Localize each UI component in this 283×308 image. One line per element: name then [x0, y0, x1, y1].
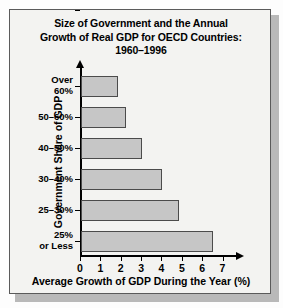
x-tick-mark	[100, 256, 101, 261]
x-tick-label: 7	[213, 262, 233, 274]
category-label-25-or-less: 25% or Less	[15, 229, 73, 251]
x-tick-label: 6	[192, 262, 212, 274]
y-tick-mark	[75, 179, 80, 180]
x-tick-mark	[80, 256, 81, 261]
x-tick-mark	[161, 256, 162, 261]
bar-25-30	[81, 200, 179, 221]
x-axis-arrowhead	[236, 252, 244, 260]
x-axis-title: Average Growth of GDP During the Year (%…	[10, 275, 272, 287]
category-label-line: 40–50%	[15, 142, 73, 153]
chart-page: Size of Government and the Annual Growth…	[0, 0, 283, 308]
category-label-50-60: 50–60%	[15, 111, 73, 122]
x-tick-mark	[202, 256, 203, 261]
y-tick-mark	[75, 148, 80, 149]
x-tick-mark	[141, 256, 142, 261]
category-label-line: 25%	[15, 229, 73, 240]
category-label-over-60: Over 60%	[15, 74, 73, 96]
x-tick-label: 3	[131, 262, 151, 274]
y-tick-mark	[75, 117, 80, 118]
bar-25-or-less	[81, 231, 213, 252]
y-tick-mark	[75, 241, 80, 242]
x-tick-mark	[121, 256, 122, 261]
category-label-line: Over	[15, 74, 73, 85]
bar-50-60	[81, 107, 126, 128]
category-label-line: or Less	[15, 240, 73, 251]
bar-over-60	[81, 76, 118, 97]
category-label-line: 25–30%	[15, 204, 73, 215]
category-label-40-50: 40–50%	[15, 142, 73, 153]
x-axis-line	[80, 255, 237, 257]
x-tick-label: 2	[111, 262, 131, 274]
x-tick-label: 0	[70, 262, 90, 274]
category-label-30-40: 30–40%	[15, 173, 73, 184]
y-tick-mark	[75, 10, 80, 11]
y-axis-arrowhead	[76, 60, 84, 68]
y-tick-mark	[75, 86, 80, 87]
x-tick-mark	[223, 256, 224, 261]
x-tick-label: 5	[172, 262, 192, 274]
chart-card: Size of Government and the Annual Growth…	[9, 9, 271, 294]
plot-area: Government Share of GDP 0 1 2 3 4 5 6 7	[10, 10, 272, 295]
y-tick-mark	[75, 210, 80, 211]
x-tick-mark	[182, 256, 183, 261]
category-label-line: 30–40%	[15, 173, 73, 184]
x-tick-label: 4	[151, 262, 171, 274]
x-tick-label: 1	[90, 262, 110, 274]
y-axis-title: Government Share of GDP	[52, 72, 64, 252]
bar-30-40	[81, 169, 162, 190]
category-label-25-30: 25–30%	[15, 204, 73, 215]
category-label-line: 50–60%	[15, 111, 73, 122]
bar-40-50	[81, 138, 142, 159]
category-label-line: 60%	[15, 85, 73, 96]
